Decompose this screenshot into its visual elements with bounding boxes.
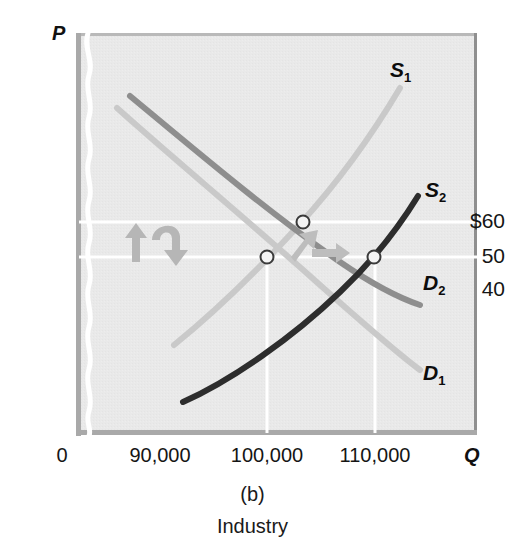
- x-axis-tick-0: 0: [56, 444, 67, 467]
- curve-label-s2: S2: [425, 178, 446, 205]
- curve-label-d1-subscript: 1: [438, 373, 445, 388]
- equilibrium-point-intermediate: [297, 216, 310, 229]
- figure-title: Industry: [0, 515, 505, 538]
- plot-right-edge: [474, 33, 477, 433]
- x-axis-line: [79, 430, 477, 435]
- figure-panel-label: (b): [0, 483, 505, 506]
- x-axis-tick-90000: 90,000: [129, 444, 190, 467]
- curve-label-d2-subscript: 2: [438, 283, 445, 298]
- plot-top-edge: [79, 33, 477, 36]
- x-axis-tick-100000: 100,000: [231, 444, 303, 467]
- curve-label-s1-subscript: 1: [404, 70, 411, 85]
- curve-label-s2-letter: S: [425, 178, 439, 201]
- curve-label-s1-letter: S: [390, 58, 404, 81]
- y-axis-symbol: P: [52, 22, 66, 45]
- equilibrium-point-final: [368, 251, 381, 264]
- y-axis-line: [76, 33, 81, 436]
- x-axis-tick-110000: 110,000: [340, 444, 411, 467]
- supply-demand-figure: P Q $60 50 40 0 90,000 100,000 110,000 S…: [0, 0, 505, 554]
- curve-label-d2-letter: D: [423, 271, 438, 294]
- curve-label-s2-subscript: 2: [439, 190, 446, 205]
- curve-label-d1: D1: [423, 361, 445, 388]
- equilibrium-point-initial: [261, 251, 274, 264]
- curve-label-s1: S1: [390, 58, 411, 85]
- curve-label-d1-letter: D: [423, 361, 438, 384]
- y-axis-tick-60: $60: [431, 209, 505, 233]
- curve-label-d2: D2: [423, 271, 445, 298]
- x-axis-symbol: Q: [464, 444, 480, 467]
- y-axis-tick-50: 50: [431, 244, 505, 268]
